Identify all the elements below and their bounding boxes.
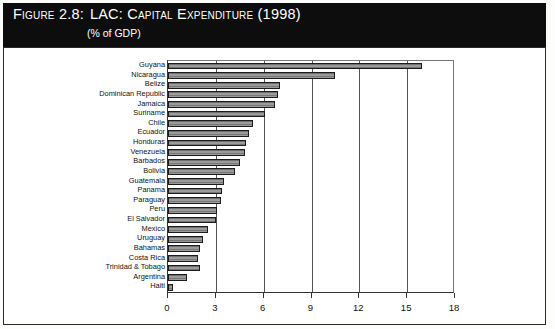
- x-tick-label-18: 18: [449, 302, 460, 313]
- bar: [168, 245, 200, 252]
- category-label: Haiti: [150, 281, 165, 290]
- category-label: Paraguay: [133, 195, 165, 204]
- bar: [168, 140, 246, 147]
- x-tick-mark-15: [406, 293, 407, 298]
- bar: [168, 120, 253, 127]
- category-label: Uruguay: [137, 233, 165, 242]
- category-label: Guyana: [139, 60, 165, 69]
- x-tick-label-6: 6: [260, 302, 265, 313]
- category-label: Costa Rica: [129, 253, 165, 262]
- chart-frame: GuyanaNicaraguaBelizeDominican RepublicJ…: [3, 47, 546, 325]
- bar: [168, 63, 422, 70]
- figure-title-line: Figure 2.8:LAC: Capital Expenditure (199…: [13, 6, 301, 22]
- bar: [168, 265, 200, 272]
- bar: [168, 72, 335, 79]
- bar: [168, 159, 240, 166]
- category-label: Jamaica: [137, 99, 165, 108]
- category-label: Mexico: [142, 224, 165, 233]
- category-label: Dominican Republic: [99, 89, 165, 98]
- bar: [168, 111, 265, 118]
- category-label: Bahamas: [134, 243, 165, 252]
- category-label: Bolivia: [143, 166, 165, 175]
- figure-number: Figure 2.8:: [13, 6, 84, 22]
- category-label: Barbados: [133, 156, 165, 165]
- category-label: Ecuador: [137, 127, 165, 136]
- bar: [168, 197, 221, 204]
- x-tick-label-3: 3: [212, 302, 217, 313]
- bar-rows: GuyanaNicaraguaBelizeDominican RepublicJ…: [168, 61, 453, 292]
- category-label: Peru: [149, 204, 165, 213]
- category-label: Venezuela: [130, 147, 165, 156]
- x-tick-label-12: 12: [353, 302, 364, 313]
- category-label: Honduras: [133, 137, 165, 146]
- x-tick-label-0: 0: [164, 302, 169, 313]
- category-label: Trinidad & Tobago: [105, 262, 165, 271]
- x-tick-mark-0: [167, 293, 168, 298]
- bar: [168, 101, 275, 108]
- bar: [168, 207, 217, 214]
- bar: [168, 168, 235, 175]
- figure-page: Figure 2.8:LAC: Capital Expenditure (199…: [0, 0, 555, 329]
- bar: [168, 217, 216, 224]
- x-tick-mark-6: [263, 293, 264, 298]
- category-label: Belize: [145, 79, 165, 88]
- figure-subtitle: (% of GDP): [87, 27, 141, 39]
- category-label: Nicaragua: [131, 70, 165, 79]
- bar: [168, 236, 203, 243]
- figure-title-bar: Figure 2.8:LAC: Capital Expenditure (199…: [3, 3, 546, 47]
- plot-box: GuyanaNicaraguaBelizeDominican RepublicJ…: [167, 60, 454, 293]
- x-tick-mark-18: [454, 293, 455, 298]
- bar: [168, 226, 208, 233]
- bar: [168, 130, 249, 137]
- bar: [168, 274, 187, 281]
- bar: [168, 255, 198, 262]
- x-tick-mark-3: [215, 293, 216, 298]
- category-label: Suriname: [133, 108, 165, 117]
- bar: [168, 188, 222, 195]
- page-title: LAC: Capital Expenditure (1998): [90, 6, 301, 22]
- bar: [168, 178, 224, 185]
- category-label: El Salvador: [127, 214, 165, 223]
- category-label: Guatemala: [129, 176, 165, 185]
- x-tick-label-15: 15: [401, 302, 412, 313]
- bar: [168, 149, 245, 156]
- x-tick-mark-12: [358, 293, 359, 298]
- category-label: Argentina: [133, 272, 165, 281]
- bar: [168, 284, 173, 291]
- x-axis-ticks: 0369121518: [167, 293, 454, 315]
- category-label: Chile: [148, 118, 165, 127]
- x-tick-mark-9: [311, 293, 312, 298]
- bar: [168, 82, 280, 89]
- bar: [168, 91, 278, 98]
- x-tick-label-9: 9: [308, 302, 313, 313]
- plot-area: GuyanaNicaraguaBelizeDominican RepublicJ…: [4, 48, 547, 326]
- category-label: Panama: [137, 185, 165, 194]
